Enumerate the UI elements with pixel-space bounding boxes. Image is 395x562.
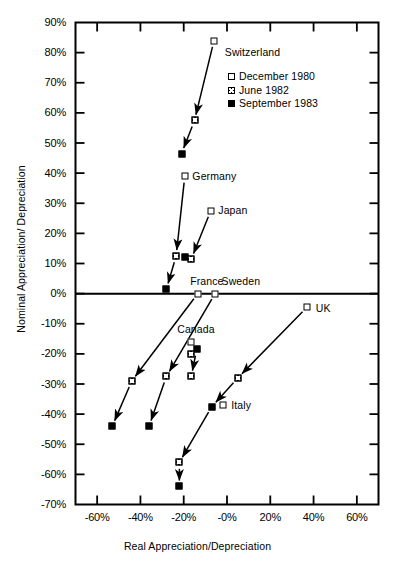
y-tick-label: -40% xyxy=(20,409,66,420)
data-point-italy xyxy=(176,459,183,466)
y-axis-title: Nominal Appreciation/ Depreciation xyxy=(15,124,27,374)
data-point-italy xyxy=(176,483,183,490)
data-point-sweden xyxy=(146,423,153,430)
data-point-italy xyxy=(208,403,215,410)
series-label-italy: Italy xyxy=(231,400,251,411)
series-label-sweden: Sweden xyxy=(222,276,261,287)
y-tick-label: 70% xyxy=(20,77,66,88)
data-point-germany xyxy=(181,173,188,180)
series-label-uk: UK xyxy=(316,303,331,314)
y-tick-label: -60% xyxy=(20,469,66,480)
plot-frame xyxy=(76,23,379,505)
x-tick-label: 60% xyxy=(346,512,367,523)
y-tick-label: 60% xyxy=(20,107,66,118)
y-tick-label: -70% xyxy=(20,499,66,510)
figure-scatter-appreciation-depreciation: 90%80%70%60%50%40%30%20%10%0%-10%-20%-30… xyxy=(0,0,395,562)
data-point-japan xyxy=(188,255,195,262)
legend-item: December 1980 xyxy=(228,70,318,84)
y-tick-label: 80% xyxy=(20,47,66,58)
legend: December 1980June 1982September 1983 xyxy=(228,70,318,111)
x-axis-title: Real Appreciation/Depreciation xyxy=(0,540,395,552)
data-point-canada xyxy=(188,350,195,357)
data-point-sweden xyxy=(212,290,219,297)
x-tick-label: -60% xyxy=(85,512,110,523)
data-point-germany xyxy=(173,252,180,259)
data-point-switzerland xyxy=(191,117,198,124)
legend-swatch-open-square xyxy=(228,73,235,80)
legend-swatch-crosshatch-square xyxy=(228,87,235,94)
data-point-france xyxy=(109,423,116,430)
data-point-france xyxy=(194,290,201,297)
legend-item: June 1982 xyxy=(228,84,318,98)
data-point-sweden xyxy=(163,373,170,380)
axis-ticks xyxy=(76,23,379,505)
x-tick-label: -0% xyxy=(218,512,237,523)
series-label-canada: Canada xyxy=(177,324,214,335)
x-tick-label: 20% xyxy=(260,512,281,523)
data-point-france xyxy=(128,377,135,384)
series-label-germany: Germany xyxy=(192,171,236,182)
y-tick-label: -30% xyxy=(20,379,66,390)
data-point-canada xyxy=(188,373,195,380)
legend-label: September 1983 xyxy=(239,97,318,111)
x-tick-label: -40% xyxy=(128,512,153,523)
x-tick-label: -20% xyxy=(171,512,196,523)
data-point-germany xyxy=(163,286,170,293)
data-point-switzerland xyxy=(178,150,185,157)
series-label-switzerland: Switzerland xyxy=(225,47,280,58)
series-arrows xyxy=(115,47,303,481)
data-point-canada xyxy=(188,338,195,345)
y-tick-label: -50% xyxy=(20,439,66,450)
y-tick-label: 90% xyxy=(20,17,66,28)
data-point-uk xyxy=(304,304,311,311)
series-label-france: France xyxy=(190,276,223,287)
legend-label: June 1982 xyxy=(239,84,289,98)
x-tick-label: 40% xyxy=(303,512,324,523)
legend-item: September 1983 xyxy=(228,97,318,111)
data-point-japan xyxy=(207,207,214,214)
legend-label: December 1980 xyxy=(239,70,315,84)
data-point-switzerland xyxy=(211,37,218,44)
data-point-uk xyxy=(234,374,241,381)
data-point-italy xyxy=(219,402,226,409)
legend-swatch-filled-square xyxy=(228,100,235,107)
series-label-japan: Japan xyxy=(218,205,247,216)
